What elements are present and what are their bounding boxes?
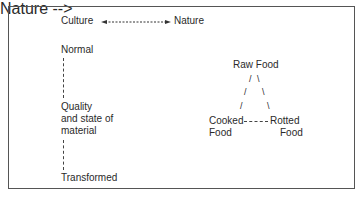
left-edge-slash: / [244, 87, 247, 97]
right-edge-backslash: \ [262, 87, 265, 97]
rotted-food-label-1: Rotted [270, 115, 299, 127]
culture-label: Culture [61, 15, 93, 27]
rotted-food-label-2: Food [280, 127, 303, 139]
cooked-food-label-2: Food [209, 127, 232, 139]
right-edge-backslash: \ [267, 101, 270, 111]
cooked-food-label-1: Cooked [209, 115, 243, 127]
quality-label-2: and state of [61, 113, 113, 125]
left-edge-slash: / [249, 74, 252, 84]
scale-dashed-line-top [63, 58, 64, 98]
nature-label: Nature [174, 15, 204, 27]
quality-label-1: Quality [61, 101, 92, 113]
left-edge-slash: / [240, 101, 243, 111]
normal-label: Normal [61, 44, 93, 56]
scale-dashed-line-bottom [63, 140, 64, 170]
raw-food-label: Raw Food [233, 59, 279, 71]
diagram-frame [8, 6, 355, 189]
quality-label-3: material [61, 125, 97, 137]
transformed-label: Transformed [61, 172, 117, 184]
base-dashed-line [244, 121, 268, 122]
bidirectional-arrow-icon [101, 20, 171, 24]
right-edge-backslash: \ [257, 74, 260, 84]
